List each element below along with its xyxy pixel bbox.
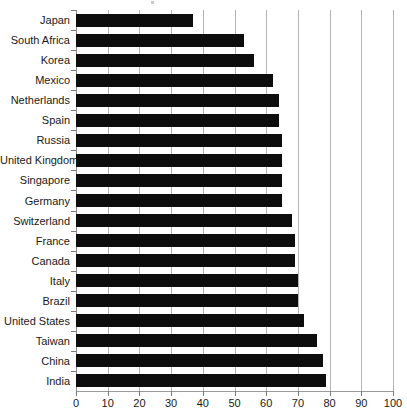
bar — [76, 94, 279, 107]
bar-row — [76, 231, 393, 251]
y-tick-mark — [71, 311, 76, 312]
bar-row — [76, 331, 393, 351]
bar-row — [76, 90, 393, 110]
bar — [76, 234, 295, 247]
bar — [76, 274, 298, 287]
y-axis-label-india: India — [0, 375, 70, 387]
bar — [76, 154, 282, 167]
bar — [76, 54, 254, 67]
y-tick-mark — [71, 371, 76, 372]
y-tick-mark — [71, 130, 76, 131]
plot-area — [76, 10, 393, 391]
y-axis-label-south-africa: South Africa — [0, 34, 70, 46]
bar — [76, 14, 193, 27]
y-axis-label-china: China — [0, 355, 70, 367]
bar — [76, 34, 244, 47]
y-tick-mark — [71, 331, 76, 332]
y-tick-mark — [71, 190, 76, 191]
bar-row — [76, 271, 393, 291]
y-axis-label-japan: Japan — [0, 14, 70, 26]
bar-row — [76, 251, 393, 271]
bar-rows — [76, 10, 393, 391]
x-axis-label-100: 100 — [373, 397, 407, 410]
y-tick-mark — [71, 211, 76, 212]
bar-row — [76, 311, 393, 331]
y-tick-mark — [71, 170, 76, 171]
bar-row — [76, 110, 393, 130]
y-axis-label-mexico: Mexico — [0, 74, 70, 86]
y-axis-label-singapore: Singapore — [0, 174, 70, 186]
bar — [76, 254, 295, 267]
x-tick-mark-90 — [361, 391, 362, 396]
bar-row — [76, 130, 393, 150]
x-tick-mark-30 — [171, 391, 172, 396]
y-axis-label-italy: Italy — [0, 275, 70, 287]
y-tick-mark — [71, 70, 76, 71]
x-tick-mark-40 — [203, 391, 204, 396]
y-tick-mark — [71, 150, 76, 151]
bar — [76, 114, 279, 127]
y-tick-mark — [71, 291, 76, 292]
y-axis-label-germany: Germany — [0, 195, 70, 207]
bar — [76, 314, 304, 327]
y-axis-label-canada: Canada — [0, 255, 70, 267]
y-axis-label-united-kingdom: United Kingdom — [0, 154, 70, 166]
y-tick-mark — [71, 10, 76, 11]
y-tick-mark — [71, 271, 76, 272]
y-axis-label-united-states: United States — [0, 315, 70, 327]
y-axis-label-switzerland: Switzerland — [0, 215, 70, 227]
bar-row — [76, 70, 393, 90]
y-tick-mark — [71, 30, 76, 31]
bar — [76, 374, 326, 387]
y-tick-mark — [71, 351, 76, 352]
bar-row — [76, 211, 393, 231]
y-axis-label-france: France — [0, 235, 70, 247]
bar-row — [76, 50, 393, 70]
y-axis-label-russia: Russia — [0, 134, 70, 146]
y-tick-mark — [71, 50, 76, 51]
bar — [76, 334, 317, 347]
y-tick-mark — [71, 251, 76, 252]
x-tick-mark-10 — [108, 391, 109, 396]
y-tick-mark — [71, 110, 76, 111]
y-axis-label-brazil: Brazil — [0, 295, 70, 307]
scan-artifact — [151, 1, 154, 4]
y-axis-label-netherlands: Netherlands — [0, 94, 70, 106]
bar-row — [76, 351, 393, 371]
y-axis-label-korea: Korea — [0, 54, 70, 66]
x-tick-mark-0 — [76, 391, 77, 396]
x-tick-mark-20 — [139, 391, 140, 396]
bar — [76, 194, 282, 207]
y-axis-label-spain: Spain — [0, 114, 70, 126]
bar-row — [76, 10, 393, 30]
y-axis-label-taiwan: Taiwan — [0, 335, 70, 347]
bar — [76, 74, 273, 87]
y-tick-mark — [71, 231, 76, 232]
bar — [76, 354, 323, 367]
bar — [76, 174, 282, 187]
bar-row — [76, 291, 393, 311]
bar-row — [76, 150, 393, 170]
bar — [76, 134, 282, 147]
x-tick-mark-70 — [298, 391, 299, 396]
gridline-x-100 — [393, 10, 394, 391]
bar-row — [76, 170, 393, 190]
x-tick-mark-50 — [235, 391, 236, 396]
y-tick-mark — [71, 90, 76, 91]
bar — [76, 214, 292, 227]
x-tick-mark-60 — [266, 391, 267, 396]
bar-row — [76, 371, 393, 391]
bar — [76, 294, 298, 307]
x-tick-mark-100 — [393, 391, 394, 396]
bar-row — [76, 190, 393, 210]
bar-row — [76, 30, 393, 50]
x-tick-mark-80 — [330, 391, 331, 396]
